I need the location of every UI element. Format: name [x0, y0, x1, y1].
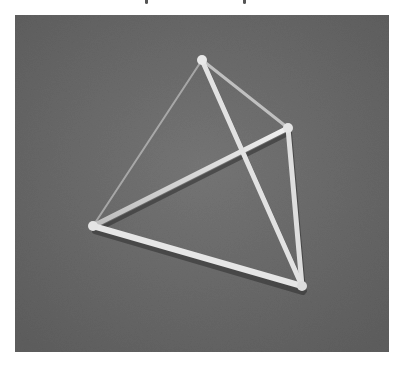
tetrahedron-illustration [15, 15, 389, 352]
vertex-bottom [297, 281, 307, 291]
vertex-right [283, 123, 293, 133]
vertex-left [88, 221, 98, 231]
tetrahedron-photograph [15, 15, 389, 352]
text-descender [243, 0, 246, 4]
text-descender [145, 0, 148, 4]
cropped-caption-text [0, 0, 407, 14]
vertex-top [197, 55, 207, 65]
